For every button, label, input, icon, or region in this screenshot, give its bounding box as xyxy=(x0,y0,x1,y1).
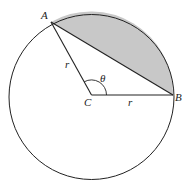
radius-label-cb: r xyxy=(128,96,133,108)
radius-label-ca: r xyxy=(65,58,70,70)
circle-segment-diagram: A B C r r θ xyxy=(0,0,185,185)
point-label-b: B xyxy=(175,91,182,103)
point-label-a: A xyxy=(40,9,48,21)
shaded-segment xyxy=(51,12,173,95)
point-label-c: C xyxy=(84,96,92,108)
angle-label-theta: θ xyxy=(100,72,106,84)
